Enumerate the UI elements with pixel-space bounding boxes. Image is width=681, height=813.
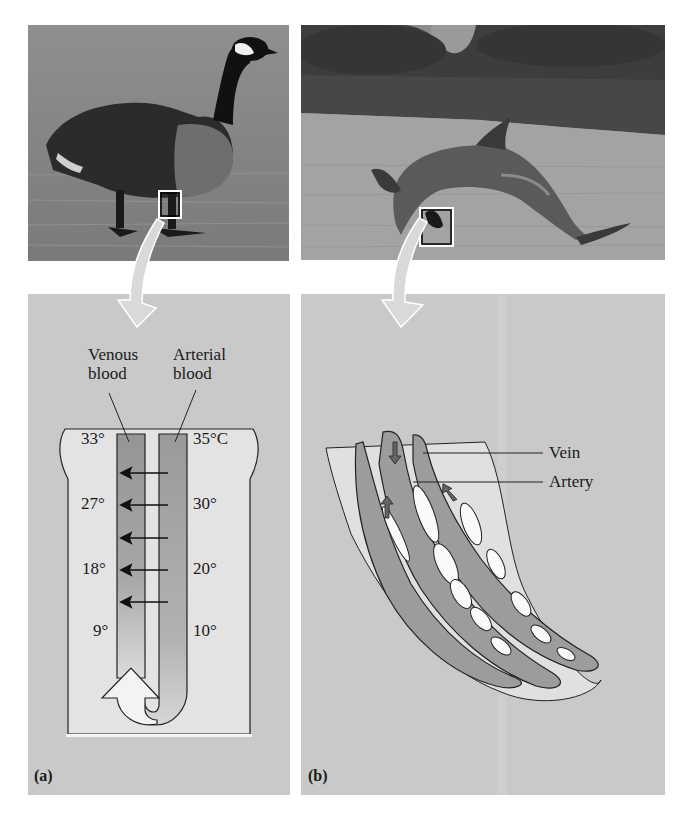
dolphin-illustration [301, 25, 665, 260]
venous-temp-4: 9° [93, 621, 108, 640]
arterial-temp-2: 30° [193, 494, 217, 513]
venous-temp-1: 33° [81, 429, 105, 448]
panel-a-letter: (a) [34, 767, 53, 785]
artery-label: Artery [549, 472, 593, 491]
arterial-temp-1: 35°C [193, 429, 228, 448]
arterial-blood-label: Arterial blood [173, 345, 226, 383]
countercurrent-flipper-diagram: Vein Artery (b) [301, 294, 665, 795]
venous-label-line2: blood [88, 364, 138, 383]
panel-b-letter: (b) [308, 767, 328, 785]
vein-label: Vein [549, 443, 580, 462]
venous-blood-label: Venous blood [88, 345, 138, 383]
dolphin-photo [301, 25, 665, 260]
countercurrent-leg-diagram: Venous blood Arterial blood 33° 27° 18° … [28, 294, 290, 795]
venous-vessel [117, 434, 145, 678]
goose-photo [28, 25, 289, 261]
venous-temp-2: 27° [81, 494, 105, 513]
arterial-label-line1: Arterial [173, 345, 226, 364]
venous-label-line1: Venous [88, 345, 138, 364]
arterial-label-line2: blood [173, 364, 226, 383]
flipper-countercurrent-schematic [301, 294, 665, 795]
arterial-temp-4: 10° [193, 621, 217, 640]
goose-illustration [28, 25, 289, 261]
leg-countercurrent-schematic [28, 294, 290, 795]
venous-temp-3: 18° [82, 559, 106, 578]
arterial-temp-3: 20° [193, 559, 217, 578]
